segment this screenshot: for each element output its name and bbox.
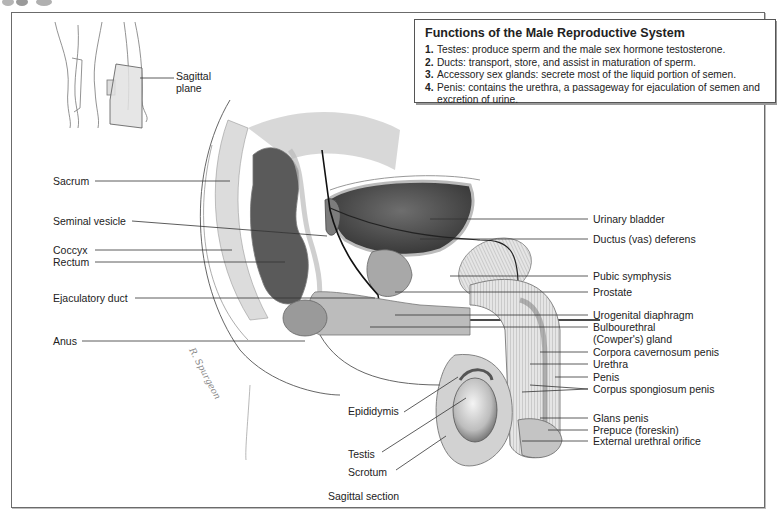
label-testis: Testis [348,448,375,460]
label-scrotum: Scrotum [348,466,387,478]
sagittal-plane-icon [110,64,142,128]
label-coccyx: Coccyx [53,244,87,256]
functions-list-item: 1.Testes: produce sperm and the male sex… [425,44,765,57]
label-prostate: Prostate [593,286,632,298]
label-anus: Anus [53,335,77,347]
label-penis: Penis [593,371,619,383]
label-ductus-deferens: Ductus (vas) deferens [593,233,696,245]
label-rectum: Rectum [53,256,89,268]
label-epididymis: Epididymis [348,405,399,417]
label-ejaculatory-duct: Ejaculatory duct [53,292,128,304]
label-external-urethral-orifice: External urethral orifice [593,435,701,447]
label-sacrum: Sacrum [53,175,89,187]
label-corpus-spongiosum: Corpus spongiosum penis [593,383,714,395]
info-box-title: Functions of the Male Reproductive Syste… [425,26,765,40]
label-urogenital-diaphragm: Urogenital diaphragm [593,309,693,321]
label-pubic-symphysis: Pubic symphysis [593,270,671,282]
functions-info-box: Functions of the Male Reproductive Syste… [414,19,776,103]
functions-list-item: 4.Penis: contains the urethra, a passage… [425,82,765,107]
label-seminal-vesicle: Seminal vesicle [53,215,126,227]
functions-list-item: 2.Ducts: transport, store, and assist in… [425,57,765,70]
label-urethra: Urethra [593,358,628,370]
functions-list-item: 3.Accessory sex glands: secrete most of … [425,69,765,82]
label-bulbourethral-gland: Bulbourethral (Cowper's) gland [593,321,672,345]
label-urinary-bladder: Urinary bladder [593,213,665,225]
inset-label-sagittal-plane: Sagittal plane [176,70,211,94]
label-glans-penis: Glans penis [593,412,648,424]
label-corpora-cavernosum: Corpora cavernosum penis [593,346,719,358]
functions-list: 1.Testes: produce sperm and the male sex… [425,44,765,107]
figure-caption: Sagittal section [328,490,399,502]
